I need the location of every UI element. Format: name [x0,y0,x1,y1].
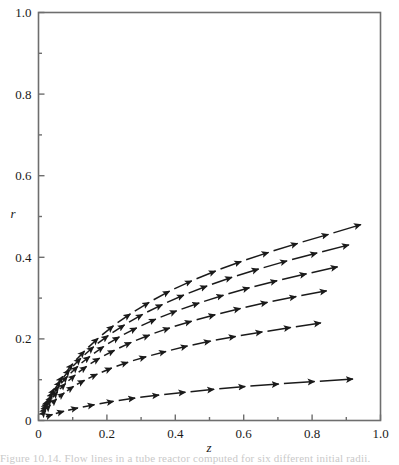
streamline-arrow-segment [79,366,87,372]
streamline-arrow-segment [219,386,245,388]
x-tick-label: 0.6 [236,426,253,441]
x-tick-label: 0.8 [304,426,320,441]
streamline-arrow-segment [274,243,298,250]
streamline-arrow-segment [161,311,177,317]
streamline-arrow-segment [60,383,66,389]
streamline-arrow-segment [46,414,52,416]
streamline-arrow-segment [241,332,263,336]
streamline-arrow-segment [100,401,114,403]
y-tick-label: 0.8 [15,87,31,102]
plot-frame [39,13,381,421]
streamline-arrow-segment [59,393,64,397]
streamline-arrow-segment [284,382,315,384]
y-tick-label: 0.6 [15,168,32,183]
streamline-arrow-segment [118,314,131,323]
streamline-arrow-segment [292,253,317,259]
streamline-arrow-segment [52,399,56,403]
streamline-arrow-segment [220,309,240,314]
streamline-arrow-segment [85,347,94,355]
streamline-arrow-segment [102,326,113,335]
streamline-arrow-segment [228,288,249,294]
x-tick-label: 1.0 [372,426,388,441]
streamline-arrow-segment [129,314,143,322]
streamline [46,379,353,417]
streamline [44,225,360,407]
streamline-arrow-segment [320,379,353,381]
streamline-arrow-segment [333,225,361,233]
streamline-arrow-segment [141,319,155,325]
streamline-arrow-segment [147,305,162,312]
y-tick-label: 0.4 [15,250,32,265]
figure-container: 00.20.40.60.81.000.20.40.60.81.0 z r Fig… [0,0,399,465]
streamline-arrow-segment [56,411,64,413]
streamline-arrow-segment [68,375,75,381]
x-tick-label: 0.2 [99,426,115,441]
streamline [43,267,337,410]
streamline-arrow-segment [88,374,97,378]
y-tick-label: 1.0 [15,5,31,20]
streamline-arrow-segment [83,405,95,407]
streamline-arrow-segment [189,286,207,293]
streamline-arrow-segment [171,346,187,350]
y-tick-label: 0 [25,413,32,428]
streamline-arrow-segment [197,271,216,279]
streamline-arrow-segment [164,392,185,394]
streamline-arrow-segment [71,366,78,373]
streamline-arrow-segment [94,347,104,354]
axis-ticks [39,13,381,421]
x-tick-label: 0.4 [167,426,184,441]
streamline-arrow-segment [254,281,277,287]
streamline-arrow-segment [174,281,192,289]
streamline [43,291,327,412]
streamline-arrow-segment [193,341,211,345]
streamline-arrow-segment [104,350,114,355]
y-axis-title: r [10,206,16,221]
streamline-arrow-segment [264,261,287,268]
streamline-arrow-segment [182,303,200,309]
streamline-arrow-segment [282,274,306,280]
streamline-arrow-segment [312,267,338,273]
streamline-arrow-segment [154,291,170,300]
streamline-arrow-segment [246,302,268,307]
streamline-arrow-segment [220,261,241,269]
streamline-arrow-segment [88,338,98,347]
streamline-arrow-segment [113,325,125,333]
streamline-arrow-segment [136,335,150,340]
streamline-arrow-segment [301,291,326,296]
streamline-arrow-segment [175,321,192,326]
streamline-arrow-segment [119,342,131,348]
streamline-arrow-segment [67,386,74,390]
streamline-arrow-segment [135,302,149,311]
streamline-arrow-segment [204,295,223,301]
figure-caption: Figure 10.14. Flow lines in a tube react… [0,452,399,465]
streamline-arrow-segment [296,323,321,327]
streamline [44,245,349,409]
streamline-arrow-segment [303,234,329,242]
x-tick-label: 0 [35,426,42,441]
streamline-arrow-segment [77,380,85,384]
streamline-arrow-segment [212,277,232,284]
streamline-arrow-segment [124,328,137,335]
streamline-arrow-segment [155,328,170,333]
streamline-arrow-segment [140,395,159,397]
streamline-arrow-segment [91,358,100,364]
streamline-arrow-segment [133,357,146,361]
streamline-arrow-segment [237,269,259,276]
streamline-arrow-segment [167,295,184,302]
axis-tick-labels: 00.20.40.60.81.000.20.40.60.81.0 [15,5,388,441]
streamline-arrow-segment [108,337,119,344]
streamline-plot: 00.20.40.60.81.000.20.40.60.81.0 z r [0,0,399,465]
streamline-arrow-segment [322,245,349,252]
streamline-arrow-segment [68,408,78,410]
streamline-arrow-segment [267,327,290,331]
streamline-arrow-segment [151,351,166,355]
streamline-arrow-segment [246,252,268,259]
streamline-arrow-segment [102,368,112,372]
streamline-arrow-segment [197,315,216,320]
streamline-arrow-segment [82,356,90,363]
streamline-arrow-segment [98,336,109,344]
y-tick-label: 0.2 [15,331,31,346]
streamline-arrow-segment [47,405,50,409]
streamline-arrow-segment [191,389,215,391]
streamline-arrow-segment [273,297,297,302]
